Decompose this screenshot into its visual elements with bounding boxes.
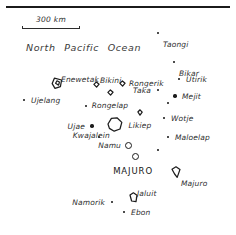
- speck-marker: [23, 99, 25, 101]
- scale-bar-label: 300 km: [22, 15, 80, 24]
- dot-lg-marker: [173, 94, 176, 97]
- place-label: Taongi: [163, 40, 188, 49]
- dot-lg-marker: [90, 124, 93, 127]
- place-label: Maloelap: [175, 133, 210, 142]
- speck-marker: [157, 89, 159, 91]
- place-label: Ujelang: [31, 96, 60, 105]
- place-label: Utirik: [186, 75, 207, 84]
- place-label: Ebon: [131, 208, 150, 217]
- speck-marker: [98, 136, 100, 138]
- place-label: Likiep: [129, 121, 152, 130]
- speck-marker: [123, 211, 125, 213]
- place-label: Namorik: [72, 198, 105, 207]
- speck-marker: [157, 32, 159, 34]
- speck-marker: [163, 117, 165, 119]
- place-label: Jaluit: [137, 189, 157, 198]
- scale-bar-tick-start: [22, 26, 23, 29]
- scale-bar: 300 km: [22, 16, 80, 29]
- place-label: Majuro: [181, 179, 207, 188]
- speck-marker: [167, 136, 169, 138]
- capital-label: MAJURO: [113, 166, 153, 176]
- atoll-small-marker: [107, 89, 114, 96]
- place-label: Rongelap: [92, 101, 129, 110]
- speck-marker: [173, 61, 175, 63]
- place-label: Kwajalein: [73, 131, 110, 140]
- place-label: Mejit: [182, 92, 201, 101]
- place-label: Ujae: [68, 122, 85, 131]
- ring-marker: [125, 142, 132, 149]
- atoll-majuro-marker: [171, 166, 181, 178]
- atoll-small-marker: [93, 81, 100, 88]
- place-label: Namu: [98, 141, 121, 150]
- ocean-label: North Pacific Ocean: [26, 42, 141, 53]
- marshall-islands-map: 300 km North Pacific Ocean TaongiBikarEn…: [0, 0, 236, 235]
- place-label: Taka: [133, 86, 151, 95]
- atoll-kwajalein-marker: [107, 117, 123, 132]
- map-top-border: [6, 6, 230, 8]
- atoll-tiny-marker: [137, 109, 143, 116]
- scale-bar-tick-end: [79, 26, 80, 29]
- atoll-small-marker: [119, 80, 126, 87]
- speck-marker: [85, 105, 87, 107]
- speck-marker: [178, 78, 180, 80]
- speck-marker: [111, 201, 113, 203]
- ring-marker: [132, 153, 139, 160]
- speck-marker: [157, 149, 159, 151]
- speck-marker: [167, 102, 169, 104]
- place-label: Wotje: [171, 114, 193, 123]
- scale-bar-rule: [22, 28, 80, 29]
